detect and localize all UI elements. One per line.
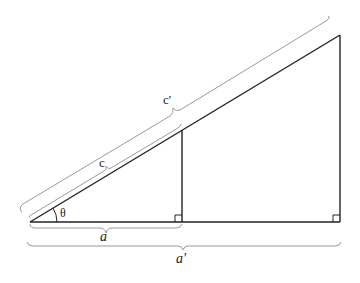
label-a-prime: a'	[176, 251, 187, 266]
angle-arc	[53, 208, 57, 222]
brace-a-prime	[27, 242, 341, 250]
right-angle-markers	[175, 215, 340, 222]
label-c: c	[99, 155, 105, 170]
brace-c	[29, 124, 181, 218]
large-triangle	[30, 35, 340, 222]
brace-c-prime	[20, 16, 329, 212]
label-c-prime: c'	[163, 92, 171, 107]
similar-triangles-diagram: c c' a a' θ	[0, 0, 360, 283]
label-a: a	[100, 229, 107, 244]
label-theta: θ	[60, 206, 66, 220]
